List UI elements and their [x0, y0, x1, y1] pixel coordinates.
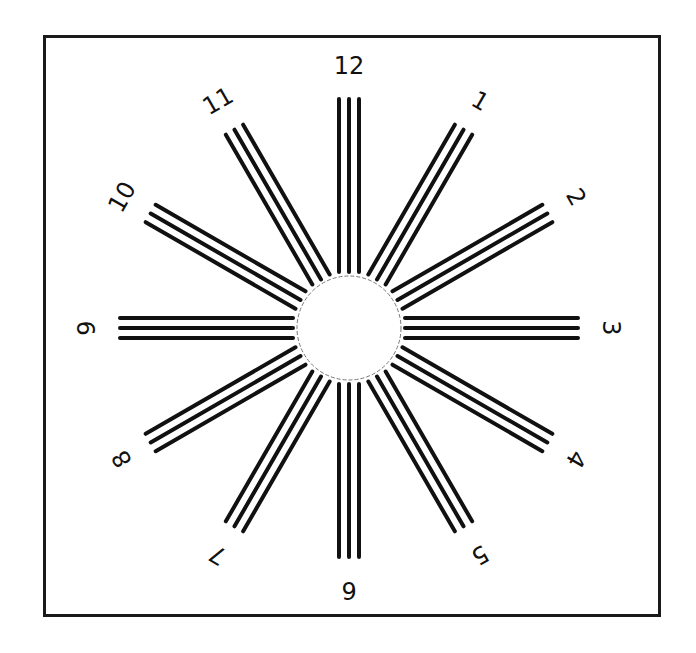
hour-label-12: 12 — [334, 52, 365, 80]
ray-line — [226, 371, 313, 521]
ray-group-5 — [368, 371, 472, 531]
hour-label-4: 4 — [560, 445, 592, 472]
hour-label-2: 2 — [560, 183, 592, 210]
center-circle — [297, 276, 401, 380]
ray-line — [156, 205, 306, 292]
hour-label-9: 9 — [73, 320, 101, 335]
hour-label-3: 3 — [597, 320, 625, 335]
hour-label-11: 11 — [198, 81, 238, 121]
ray-line — [243, 381, 330, 531]
ray-line — [402, 222, 552, 309]
ray-group-10 — [146, 205, 306, 309]
hour-label-8: 8 — [106, 445, 138, 472]
ray-line — [392, 365, 542, 452]
hour-label-1: 1 — [466, 85, 493, 117]
ray-line — [156, 365, 306, 452]
ray-group-4 — [392, 347, 552, 451]
hour-label-10: 10 — [102, 177, 142, 217]
ray-group-2 — [392, 205, 552, 309]
ray-group-9 — [120, 318, 293, 338]
ray-line — [386, 371, 473, 521]
ray-line — [146, 347, 296, 434]
hour-label-7: 7 — [204, 539, 231, 571]
ray-line — [226, 135, 313, 285]
ray-line — [368, 125, 455, 275]
hour-label-6: 6 — [341, 576, 356, 604]
hour-label-5: 5 — [466, 539, 493, 571]
ray-line — [243, 125, 330, 275]
ray-group-3 — [405, 318, 578, 338]
ray-group-11 — [226, 125, 330, 285]
ray-group-8 — [146, 347, 306, 451]
ray-line — [146, 222, 296, 309]
ray-line — [386, 135, 473, 285]
ray-group-7 — [226, 371, 330, 531]
ray-group-6 — [339, 384, 359, 557]
ray-group-12 — [339, 99, 359, 272]
ray-line — [392, 205, 542, 292]
ray-line — [402, 347, 552, 434]
clock-dial: 121234567891011 — [0, 0, 696, 653]
ray-line — [368, 381, 455, 531]
ray-group-1 — [368, 125, 472, 285]
